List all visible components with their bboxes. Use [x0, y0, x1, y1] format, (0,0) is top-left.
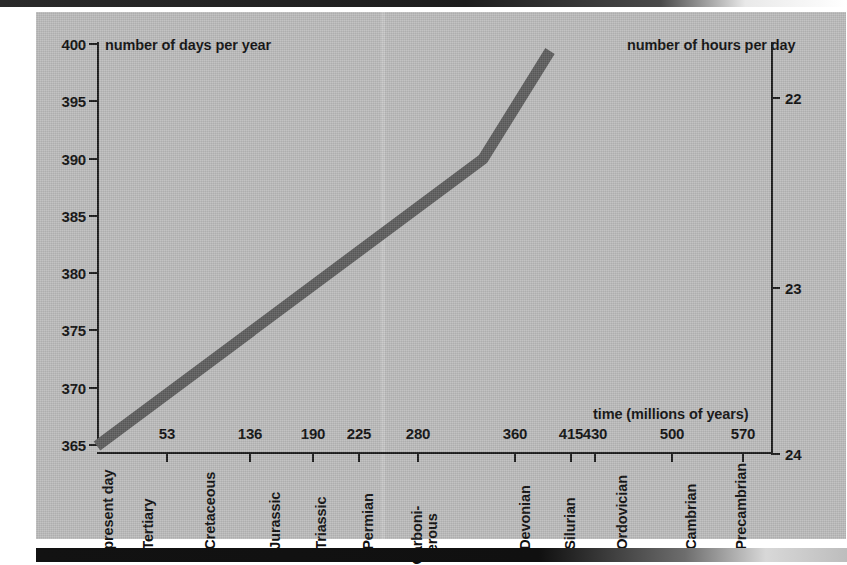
scan-edge-bottom — [36, 548, 847, 562]
data-series-line — [36, 12, 846, 539]
figure-panel: 400 395 390 385 380 375 370 365 number o… — [36, 12, 846, 539]
plot-area: 400 395 390 385 380 375 370 365 number o… — [36, 12, 846, 539]
days-per-year-trend-polyline — [97, 51, 550, 446]
scan-edge-top — [0, 0, 847, 7]
